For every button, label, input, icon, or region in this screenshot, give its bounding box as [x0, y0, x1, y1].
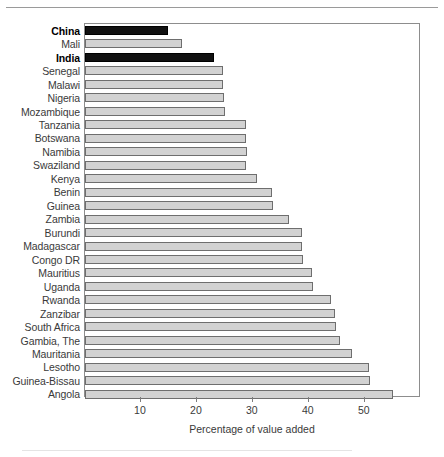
bar [85, 309, 335, 318]
category-label: Angola [48, 389, 80, 400]
bar [85, 228, 302, 237]
bar-row: Guinea [85, 199, 419, 212]
bar-row: Madagascar [85, 240, 419, 253]
category-label: Madagascar [23, 241, 80, 252]
category-label: Botswana [35, 133, 80, 144]
bar [85, 93, 224, 102]
bar [85, 39, 182, 48]
category-label: Guinea-Bissau [12, 375, 80, 386]
bar [85, 134, 246, 143]
bar-row: Burundi [85, 226, 419, 239]
x-axis-ticks [84, 397, 420, 403]
bar-row: Tanzania [85, 118, 419, 131]
category-label: Zanzibar [40, 308, 80, 319]
x-tick-label: 50 [358, 404, 370, 417]
bar [85, 26, 168, 35]
bar [85, 107, 225, 116]
x-tick [252, 397, 253, 402]
bar-row: Mauritania [85, 347, 419, 360]
category-label: Nigeria [47, 93, 80, 104]
category-label: Senegal [42, 66, 80, 77]
category-label: Zambia [46, 214, 80, 225]
category-label: Malawi [48, 79, 80, 90]
category-label: Guinea [47, 200, 80, 211]
bar [85, 80, 223, 89]
bar-row: China [85, 24, 419, 37]
x-tick [140, 397, 141, 402]
bar [85, 147, 247, 156]
category-label: Mali [61, 39, 80, 50]
x-tick [308, 397, 309, 402]
x-axis-title: Percentage of value added [84, 423, 420, 435]
bar [85, 282, 313, 291]
bar-row: Malawi [85, 78, 419, 91]
bar-row: Gambia, The [85, 334, 419, 347]
bar-row: Kenya [85, 172, 419, 185]
category-label: Kenya [51, 173, 80, 184]
bar-rows: ChinaMaliIndiaSenegalMalawiNigeriaMozamb… [85, 24, 419, 396]
category-label: India [56, 52, 80, 63]
category-label: Lesotho [43, 362, 80, 373]
bar-row: Congo DR [85, 253, 419, 266]
x-tick [196, 397, 197, 402]
bar [85, 161, 246, 170]
category-label: Namibia [42, 146, 80, 157]
bar [85, 349, 352, 358]
category-label: Mozambique [21, 106, 80, 117]
bar-row: Swaziland [85, 159, 419, 172]
x-tick [364, 397, 365, 402]
bar [85, 363, 369, 372]
x-tick-label: 30 [246, 404, 258, 417]
bar [85, 66, 223, 75]
x-axis-tick-labels: 1020304050 [84, 404, 420, 418]
bar-row: Senegal [85, 64, 419, 77]
x-tick-label: 20 [190, 404, 202, 417]
bar [85, 255, 303, 264]
bar [85, 174, 257, 183]
bar-row: Zanzibar [85, 307, 419, 320]
x-tick-label: 40 [302, 404, 314, 417]
category-label: Congo DR [32, 254, 80, 265]
bar [85, 322, 336, 331]
bar-row: Mauritius [85, 266, 419, 279]
bar-row: Mozambique [85, 105, 419, 118]
category-label: Swaziland [33, 160, 80, 171]
bar [85, 120, 246, 129]
bar [85, 268, 312, 277]
x-tick-label: 10 [134, 404, 146, 417]
category-label: China [51, 25, 80, 36]
category-label: Benin [54, 187, 80, 198]
bar-row: Mali [85, 37, 419, 50]
bar [85, 242, 302, 251]
bar [85, 295, 331, 304]
bar-row: Benin [85, 186, 419, 199]
bar-row: Botswana [85, 132, 419, 145]
category-label: Rwanda [42, 295, 80, 306]
bottom-divider-rule [22, 450, 352, 451]
bar-row: Zambia [85, 213, 419, 226]
bar-row: Rwanda [85, 293, 419, 306]
bar [85, 201, 273, 210]
category-label: Mauritius [38, 268, 80, 279]
category-label: Tanzania [39, 120, 80, 131]
category-label: Mauritania [32, 348, 80, 359]
bar-row: Lesotho [85, 361, 419, 374]
bar-row: Guinea-Bissau [85, 374, 419, 387]
bar [85, 376, 370, 385]
bar-chart: ChinaMaliIndiaSenegalMalawiNigeriaMozamb… [0, 0, 444, 457]
bar-row: India [85, 51, 419, 64]
bar-row: Nigeria [85, 91, 419, 104]
category-label: Gambia, The [21, 335, 80, 346]
bar [85, 188, 272, 197]
bar-row: Namibia [85, 145, 419, 158]
category-label: South Africa [25, 322, 80, 333]
category-label: Uganda [44, 281, 80, 292]
bar-row: South Africa [85, 320, 419, 333]
category-label: Burundi [45, 227, 81, 238]
bar-row: Uganda [85, 280, 419, 293]
bar [85, 215, 289, 224]
bar [85, 336, 340, 345]
bar [85, 53, 214, 62]
